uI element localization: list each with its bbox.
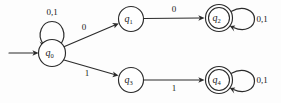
q4-self-loop-edge — [230, 71, 255, 94]
label-q0-to-q1: 0 — [82, 22, 87, 32]
q2-self-loop-edge — [230, 9, 255, 32]
label-q0-to-q3: 1 — [85, 68, 90, 78]
start-arrow — [9, 50, 39, 56]
label-q2-self-loop: 0,1 — [256, 14, 267, 24]
state-q2[interactable]: q2 — [206, 5, 233, 32]
state-q0[interactable]: q0 — [39, 40, 66, 67]
q0-to-q3-edge — [64, 60, 119, 77]
state-q1[interactable]: q1 — [119, 7, 144, 32]
state-q3[interactable]: q3 — [119, 68, 144, 93]
q0-to-q1-edge — [65, 23, 119, 47]
label-q0-self-loop: 0,1 — [46, 7, 57, 17]
label-q3-to-q4: 1 — [172, 83, 177, 93]
label-q1-to-q2: 0 — [172, 4, 177, 14]
label-q4-self-loop: 0,1 — [256, 75, 267, 85]
automaton-figure: q0 q1 q2 q3 — [0, 0, 281, 103]
q1-to-q2-edge — [144, 15, 205, 21]
state-q4[interactable]: q4 — [206, 67, 233, 94]
q3-to-q4-edge — [144, 77, 205, 83]
automaton-canvas: q0 q1 q2 q3 — [0, 0, 281, 103]
